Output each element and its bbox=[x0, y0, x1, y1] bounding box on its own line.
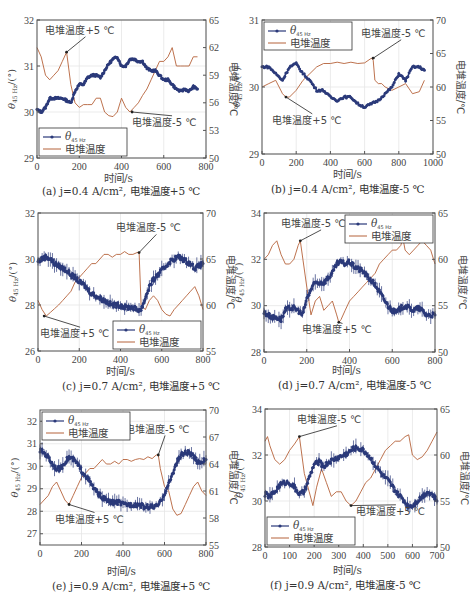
annotation: 电堆温度-5 ℃ bbox=[125, 423, 189, 457]
y2-tick-label: 61 bbox=[209, 486, 219, 497]
x-tick-label: 700 bbox=[430, 550, 445, 561]
chart-panel-d: 28303234505560650200400600800θ45 Hz/(°)电… bbox=[235, 195, 470, 395]
y2-tick-label: 60 bbox=[436, 82, 446, 93]
x-axis-label: 时间/s bbox=[107, 563, 136, 578]
y-tick-label: 26 bbox=[25, 346, 35, 357]
y2-tick-label: 60 bbox=[440, 450, 450, 461]
x-tick-label: 800 bbox=[199, 548, 214, 559]
x-tick-label: 0 bbox=[260, 157, 265, 168]
y-tick-label: 28 bbox=[27, 506, 37, 517]
y2-tick-label: 53 bbox=[209, 125, 219, 136]
y2-tick-label: 55 bbox=[440, 496, 450, 507]
annotation: 电堆温度-5 ℃ bbox=[116, 221, 180, 254]
annotation: 电堆温度+5 ℃ bbox=[272, 96, 341, 126]
x-tick-label: 400 bbox=[356, 550, 371, 561]
legend: θ45 Hz电堆温度 bbox=[42, 412, 130, 440]
y-tick-label: 31 bbox=[249, 15, 259, 26]
y-tick-label: 30 bbox=[24, 107, 34, 118]
legend: θ45 Hz电堆温度 bbox=[113, 321, 201, 349]
x-tick-label: 600 bbox=[154, 354, 169, 365]
x-tick-label: 500 bbox=[380, 550, 395, 561]
y2-axis-label: 电堆温度/℃ bbox=[457, 255, 469, 310]
legend: θ45 Hz电堆温度 bbox=[264, 22, 352, 50]
y2-tick-label: 62 bbox=[209, 42, 219, 53]
y-tick-label: 28 bbox=[25, 300, 35, 311]
y-tick-label: 30 bbox=[27, 461, 37, 472]
y-tick-label: 32 bbox=[27, 416, 37, 427]
panel-caption: (b) j=0.4 A/cm², 电堆温度-5 ℃ bbox=[271, 181, 425, 196]
y-axis-label: θ45 Hz/(°) bbox=[233, 262, 245, 302]
y2-tick-label: 59 bbox=[209, 70, 219, 81]
x-tick-label: 800 bbox=[391, 157, 406, 168]
x-tick-label: 200 bbox=[307, 550, 322, 561]
y-tick-label: 34 bbox=[251, 208, 261, 219]
svg-text:电堆温度-5 ℃: 电堆温度-5 ℃ bbox=[361, 27, 425, 39]
y2-tick-label: 64 bbox=[209, 459, 219, 470]
x-tick-label: 200 bbox=[72, 354, 87, 365]
chart-panel-b: 293031505560657002004006008001000θ45 Hz/… bbox=[235, 0, 470, 200]
legend-temp-label: 电堆温度 bbox=[68, 427, 109, 439]
y2-tick-label: 65 bbox=[209, 15, 219, 26]
svg-text:电堆温度+5 ℃: 电堆温度+5 ℃ bbox=[40, 327, 109, 339]
x-tick-label: 300 bbox=[331, 550, 346, 561]
y-tick-label: 30 bbox=[251, 300, 261, 311]
y2-tick-label: 55 bbox=[438, 300, 448, 311]
legend-temp-label: 电堆温度 bbox=[290, 37, 331, 49]
x-tick-label: 0 bbox=[38, 548, 43, 559]
legend: θ45 Hz电堆温度 bbox=[267, 517, 355, 545]
y2-axis-label: 电堆温度/℃ bbox=[459, 451, 470, 506]
legend: θ45 Hz电堆温度 bbox=[345, 215, 433, 243]
legend-temp-label: 电堆温度 bbox=[65, 143, 106, 155]
legend: θ45 Hz电堆温度 bbox=[39, 128, 127, 156]
y2-tick-label: 65 bbox=[440, 404, 450, 415]
panel-caption: (d) j=0.7 A/cm², 电堆温度-5 ℃ bbox=[278, 377, 432, 392]
y-tick-label: 32 bbox=[252, 450, 262, 461]
y-tick-label: 32 bbox=[251, 254, 261, 265]
y-axis-label: θ45 Hz/(°) bbox=[234, 458, 246, 498]
y-tick-label: 30 bbox=[252, 496, 262, 507]
y2-tick-label: 65 bbox=[436, 48, 446, 59]
x-axis-label: 时间/s bbox=[332, 362, 361, 377]
y2-tick-label: 70 bbox=[206, 208, 216, 219]
svg-text:电堆温度+5 ℃: 电堆温度+5 ℃ bbox=[272, 114, 341, 126]
y2-tick-label: 70 bbox=[209, 405, 219, 416]
y-axis-label: θ45 Hz/(°) bbox=[7, 262, 19, 302]
y-tick-label: 32 bbox=[24, 15, 34, 26]
y2-tick-label: 65 bbox=[206, 254, 216, 265]
x-tick-label: 1000 bbox=[423, 157, 443, 168]
x-tick-label: 100 bbox=[282, 550, 297, 561]
chart-panel-a: 293031325053565962650200400600800θ45 Hz/… bbox=[0, 0, 235, 200]
x-tick-label: 0 bbox=[36, 354, 41, 365]
y2-tick-label: 70 bbox=[436, 15, 446, 26]
x-tick-label: 600 bbox=[405, 550, 420, 561]
y2-tick-label: 55 bbox=[436, 115, 446, 126]
x-tick-label: 600 bbox=[157, 548, 172, 559]
x-tick-label: 600 bbox=[385, 355, 400, 366]
theta-series bbox=[261, 61, 426, 109]
svg-text:电堆温度-5 ℃: 电堆温度-5 ℃ bbox=[116, 221, 180, 233]
y-tick-label: 29 bbox=[27, 483, 37, 494]
legend-temp-label: 电堆温度 bbox=[371, 230, 412, 242]
annotation: 电堆温度-5 ℃ bbox=[361, 27, 425, 60]
x-axis-label: 时间/s bbox=[106, 363, 135, 378]
x-axis-label: 时间/s bbox=[333, 166, 362, 181]
y-tick-label: 29 bbox=[24, 153, 34, 164]
annotation: 电堆温度+5 ℃ bbox=[40, 315, 109, 340]
svg-text:电堆温度+5 ℃: 电堆温度+5 ℃ bbox=[55, 513, 124, 525]
y2-tick-label: 60 bbox=[206, 300, 216, 311]
svg-text:电堆温度+5 ℃: 电堆温度+5 ℃ bbox=[45, 24, 114, 36]
legend-temp-label: 电堆温度 bbox=[293, 532, 334, 544]
x-tick-label: 200 bbox=[74, 548, 89, 559]
y-tick-label: 28 bbox=[252, 542, 262, 553]
y-tick-label: 32 bbox=[25, 208, 35, 219]
x-tick-label: 600 bbox=[156, 161, 171, 172]
panel-caption: (e) j=0.9 A/cm², 电堆温度+5 ℃ bbox=[52, 578, 210, 593]
annotation: 电堆温度+5 ℃ bbox=[350, 504, 425, 517]
y2-tick-label: 60 bbox=[438, 254, 448, 265]
x-tick-label: 200 bbox=[289, 157, 304, 168]
y-tick-label: 30 bbox=[25, 254, 35, 265]
svg-text:电堆温度-5 ℃: 电堆温度-5 ℃ bbox=[125, 423, 189, 435]
y-tick-label: 31 bbox=[24, 61, 34, 72]
y2-tick-label: 58 bbox=[209, 513, 219, 524]
chart-panel-c: 26283032556065700200400600800θ45 Hz/(°)电… bbox=[0, 195, 235, 395]
